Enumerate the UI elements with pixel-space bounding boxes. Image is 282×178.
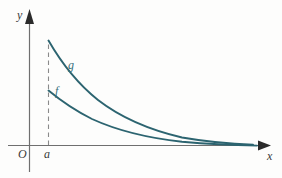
curve-label-g: g: [68, 59, 74, 71]
y-axis-label: y: [17, 9, 22, 21]
curve-f: [49, 91, 258, 146]
curve-label-f: f: [55, 85, 58, 97]
x-tick-label-a: a: [44, 148, 50, 160]
x-axis-label: x: [267, 150, 272, 162]
figure-canvas: [0, 0, 282, 178]
y-axis-arrowhead: [25, 9, 34, 24]
function-comparison-figure: y x O a g f: [0, 0, 282, 178]
origin-label: O: [18, 148, 27, 160]
curve-g: [49, 41, 254, 145]
